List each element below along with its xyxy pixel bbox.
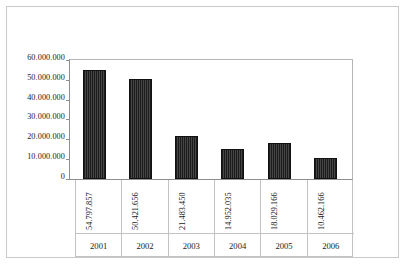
bar-2005[interactable] — [268, 143, 291, 179]
table-column-2005: 18.029.166 2005 — [261, 180, 307, 256]
y-tick-label: 10.000.000 — [7, 153, 65, 161]
data-table: 54.797.857 2001 50.421.656 2002 21.483.4… — [75, 180, 353, 257]
table-cell-value: 50.421.656 — [122, 180, 167, 234]
table-cell-value: 14.952.035 — [215, 180, 260, 234]
value-label: 50.421.656 — [131, 192, 140, 230]
table-column-2002: 50.421.656 2002 — [122, 180, 168, 256]
bar-2003[interactable] — [175, 136, 198, 179]
table-cell-value: 10.462.166 — [308, 180, 354, 234]
value-label: 21.483.450 — [178, 192, 187, 230]
y-axis-labels: 60.000.000 50.000.000 40.000.000 30.000.… — [7, 54, 65, 186]
table-cell-year: 2004 — [215, 234, 260, 257]
table-cell-year: 2006 — [308, 234, 354, 257]
table-cell-value: 21.483.450 — [169, 180, 214, 234]
table-cell-year: 2002 — [122, 234, 167, 257]
y-tick-label: 0 — [7, 173, 65, 181]
bar-2001[interactable] — [83, 70, 106, 179]
plot-area — [69, 59, 353, 180]
table-cell-value: 54.797.857 — [76, 180, 121, 234]
bar-2002[interactable] — [129, 79, 152, 179]
chart-frame: 60.000.000 50.000.000 40.000.000 30.000.… — [6, 6, 399, 258]
y-tick-label: 20.000.000 — [7, 133, 65, 141]
table-column-2006: 10.462.166 2006 — [308, 180, 354, 256]
y-tick-label: 30.000.000 — [7, 113, 65, 121]
value-label: 10.462.166 — [317, 192, 326, 230]
value-label: 18.029.166 — [270, 192, 279, 230]
table-cell-year: 2003 — [169, 234, 214, 257]
y-tick-label: 40.000.000 — [7, 94, 65, 102]
y-tick-label: 50.000.000 — [7, 74, 65, 82]
bars-layer — [70, 60, 352, 179]
value-label: 54.797.857 — [85, 192, 94, 230]
bar-2006[interactable] — [314, 158, 337, 179]
table-cell-year: 2005 — [261, 234, 306, 257]
table-column-2004: 14.952.035 2004 — [215, 180, 261, 256]
value-label: 14.952.035 — [224, 192, 233, 230]
table-column-2001: 54.797.857 2001 — [76, 180, 122, 256]
y-tick-label: 60.000.000 — [7, 54, 65, 62]
table-cell-value: 18.029.166 — [261, 180, 306, 234]
bar-2004[interactable] — [221, 149, 244, 179]
table-cell-year: 2001 — [76, 234, 121, 257]
table-column-2003: 21.483.450 2003 — [169, 180, 215, 256]
